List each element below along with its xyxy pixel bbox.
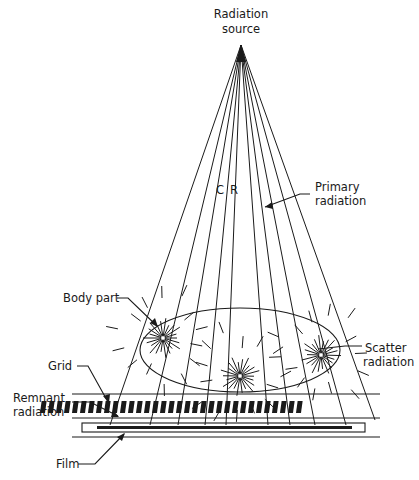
- label-central-ray-r: R: [230, 183, 238, 197]
- grid-stripes: [40, 401, 303, 413]
- label-primary-radiation-1: Primary: [315, 180, 360, 194]
- label-radiation-source-2: source: [222, 22, 260, 36]
- label-radiation-source-1: Radiation: [214, 7, 268, 21]
- radiation-diagram: Radiation source C R Primary radiation B…: [0, 0, 419, 480]
- label-body-part: Body part: [63, 291, 120, 305]
- label-scatter-radiation-1: Scatter: [365, 341, 407, 355]
- label-scatter-radiation-2: radiation: [363, 355, 414, 369]
- label-grid: Grid: [48, 359, 72, 373]
- label-film: Film: [56, 457, 79, 471]
- film-cassette: [72, 423, 380, 437]
- label-primary-radiation-2: radiation: [315, 194, 366, 208]
- grid: [40, 394, 380, 418]
